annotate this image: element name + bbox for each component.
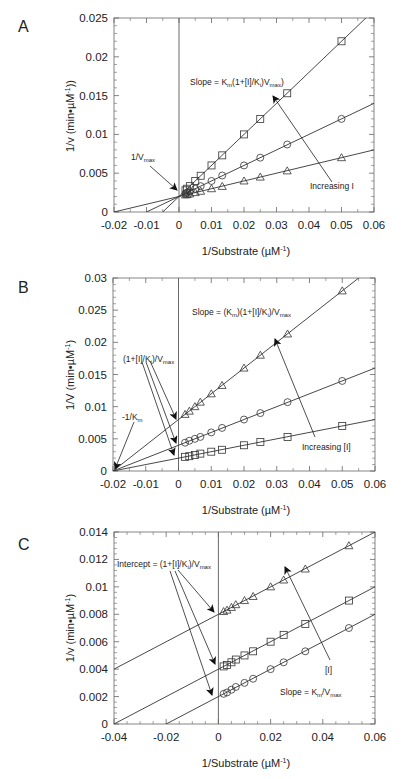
y-tick-label: 0.006 [79,636,108,648]
y-tick-label: 0.03 [85,272,107,284]
y-tick-label: 0.008 [79,608,108,620]
x-tick-label: -0.02 [100,478,126,490]
y-tick-label: 0.01 [86,581,108,593]
y-axis-label: 1/v (min•µM-1)) [64,80,76,152]
panel-c: C -0.04-0.0200.020.040.0600.0020.0040.00… [18,526,386,769]
lineweaver-burk-figure: A -0.02-0.0100.010.020.030.040.050.0600.… [0,0,403,779]
x-tick-label: 0 [175,478,181,490]
y-tick-label: 0.005 [78,433,107,445]
intercept-arrow-mid [175,571,215,664]
y-tick-label: 0.01 [86,128,108,140]
y-tick-label: 0.014 [79,526,108,538]
fit-line-triangles [114,532,375,669]
x-tick-label: 0.06 [364,478,386,490]
y-tick-label: 0.025 [79,12,108,24]
increasing-arrow [275,339,315,437]
y-tick-label: 0.002 [79,691,108,703]
y-tick-label: 0.02 [86,51,108,63]
y-tick-label: 0.004 [79,663,108,675]
x-tick-label: 0.05 [331,478,353,490]
x-axis-label: 1/Substrate (µM-1) [202,504,290,516]
y-axis-label: 1/V (min•µM-1) [64,340,76,410]
y-tick-label: 0.02 [85,336,107,348]
y-tick-label: 0 [101,465,107,477]
panel-label: A [18,18,29,35]
intercept-arrow-bottom [170,571,212,695]
plot-area: -0.02-0.0100.010.020.030.040.050.0600.00… [79,10,385,258]
panel-b: B -0.02-0.0100.010.020.030.040.050.0600.… [18,265,386,516]
panel-label: C [18,536,30,553]
x-axis-label: 1/Substrate (µM-1) [202,245,290,257]
x-tick-label: 0.02 [233,219,255,231]
x-tick-label: 0.06 [363,219,385,231]
x-tick-label: 0 [215,731,221,743]
fit-line-circles [113,368,375,471]
intercept-annotation: Intercept = (1+[I]/Ki)/Vmax [117,559,211,570]
fit-line-triangles [113,265,375,471]
x-tick-label: 0 [176,219,182,231]
inhibitor-arrow [285,567,330,660]
slope-annotation: Slope = Km(1+[I]/Ki)Vmax) [190,77,284,88]
increasing-i-annotation: Increasing I [310,181,354,191]
y-tick-label: 0 [102,718,108,730]
panel-label: B [18,279,29,296]
vmax-arrow [150,166,177,190]
y-tick-label: 0.01 [85,401,107,413]
x-tick-label: 0.04 [312,731,335,743]
y-tick-label: 0.015 [79,90,108,102]
x-tick-label: 0.04 [298,219,321,231]
slope-annotation: Slope = Km/Vmax [280,687,341,698]
y-tick-label: 0 [102,206,108,218]
x-tick-label: 0.05 [330,219,352,231]
inhibitor-annotation: [I] [325,665,332,675]
x-tick-label: -0.04 [101,731,128,743]
intercept-arrow-top [150,361,176,419]
x-tick-label: -0.02 [153,731,179,743]
x-axis-label: 1/Substrate (µM-1) [202,757,290,769]
vmax-annotation: 1/Vmax [131,152,155,163]
x-tick-label: 0.06 [364,731,386,743]
y-tick-label: 0.025 [78,304,107,316]
x-tick-label: -0.01 [133,219,159,231]
y-tick-label: 0.015 [78,369,107,381]
intercept-arrow-bottom [142,362,174,455]
x-tick-label: 0.01 [200,478,222,490]
fit-line-squares [114,587,375,724]
increasing-arrow [273,96,332,182]
x-tick-label: 0.04 [298,478,321,490]
y-axis-label: 1/v (min•µM-1) [64,594,76,662]
increasing-i-annotation: Increasing [I] [302,442,351,452]
x-tick-label: 0.02 [259,731,281,743]
x-tick-label: -0.02 [101,219,127,231]
x-tick-label: 0.02 [233,478,255,490]
intercept-arrow-mid [146,362,176,443]
y-tick-label: 0.012 [79,553,108,565]
y-tick-label: 0.005 [79,167,108,179]
x-tick-label: 0.01 [200,219,222,231]
slope-annotation: Slope = (Km)(1+[I]/Ki)/Vmax [192,307,291,318]
plot-area: -0.02-0.0100.010.020.030.040.050.0600.00… [78,265,386,490]
x-tick-label: 0.03 [266,478,288,490]
panel-a: A -0.02-0.0100.010.020.030.040.050.0600.… [18,10,385,258]
km-annotation: -1/Km [122,412,143,423]
x-tick-label: 0.03 [265,219,287,231]
x-tick-label: -0.01 [133,478,159,490]
intercept-annotation: (1+[I]/Ki)/Vmax [123,354,174,365]
